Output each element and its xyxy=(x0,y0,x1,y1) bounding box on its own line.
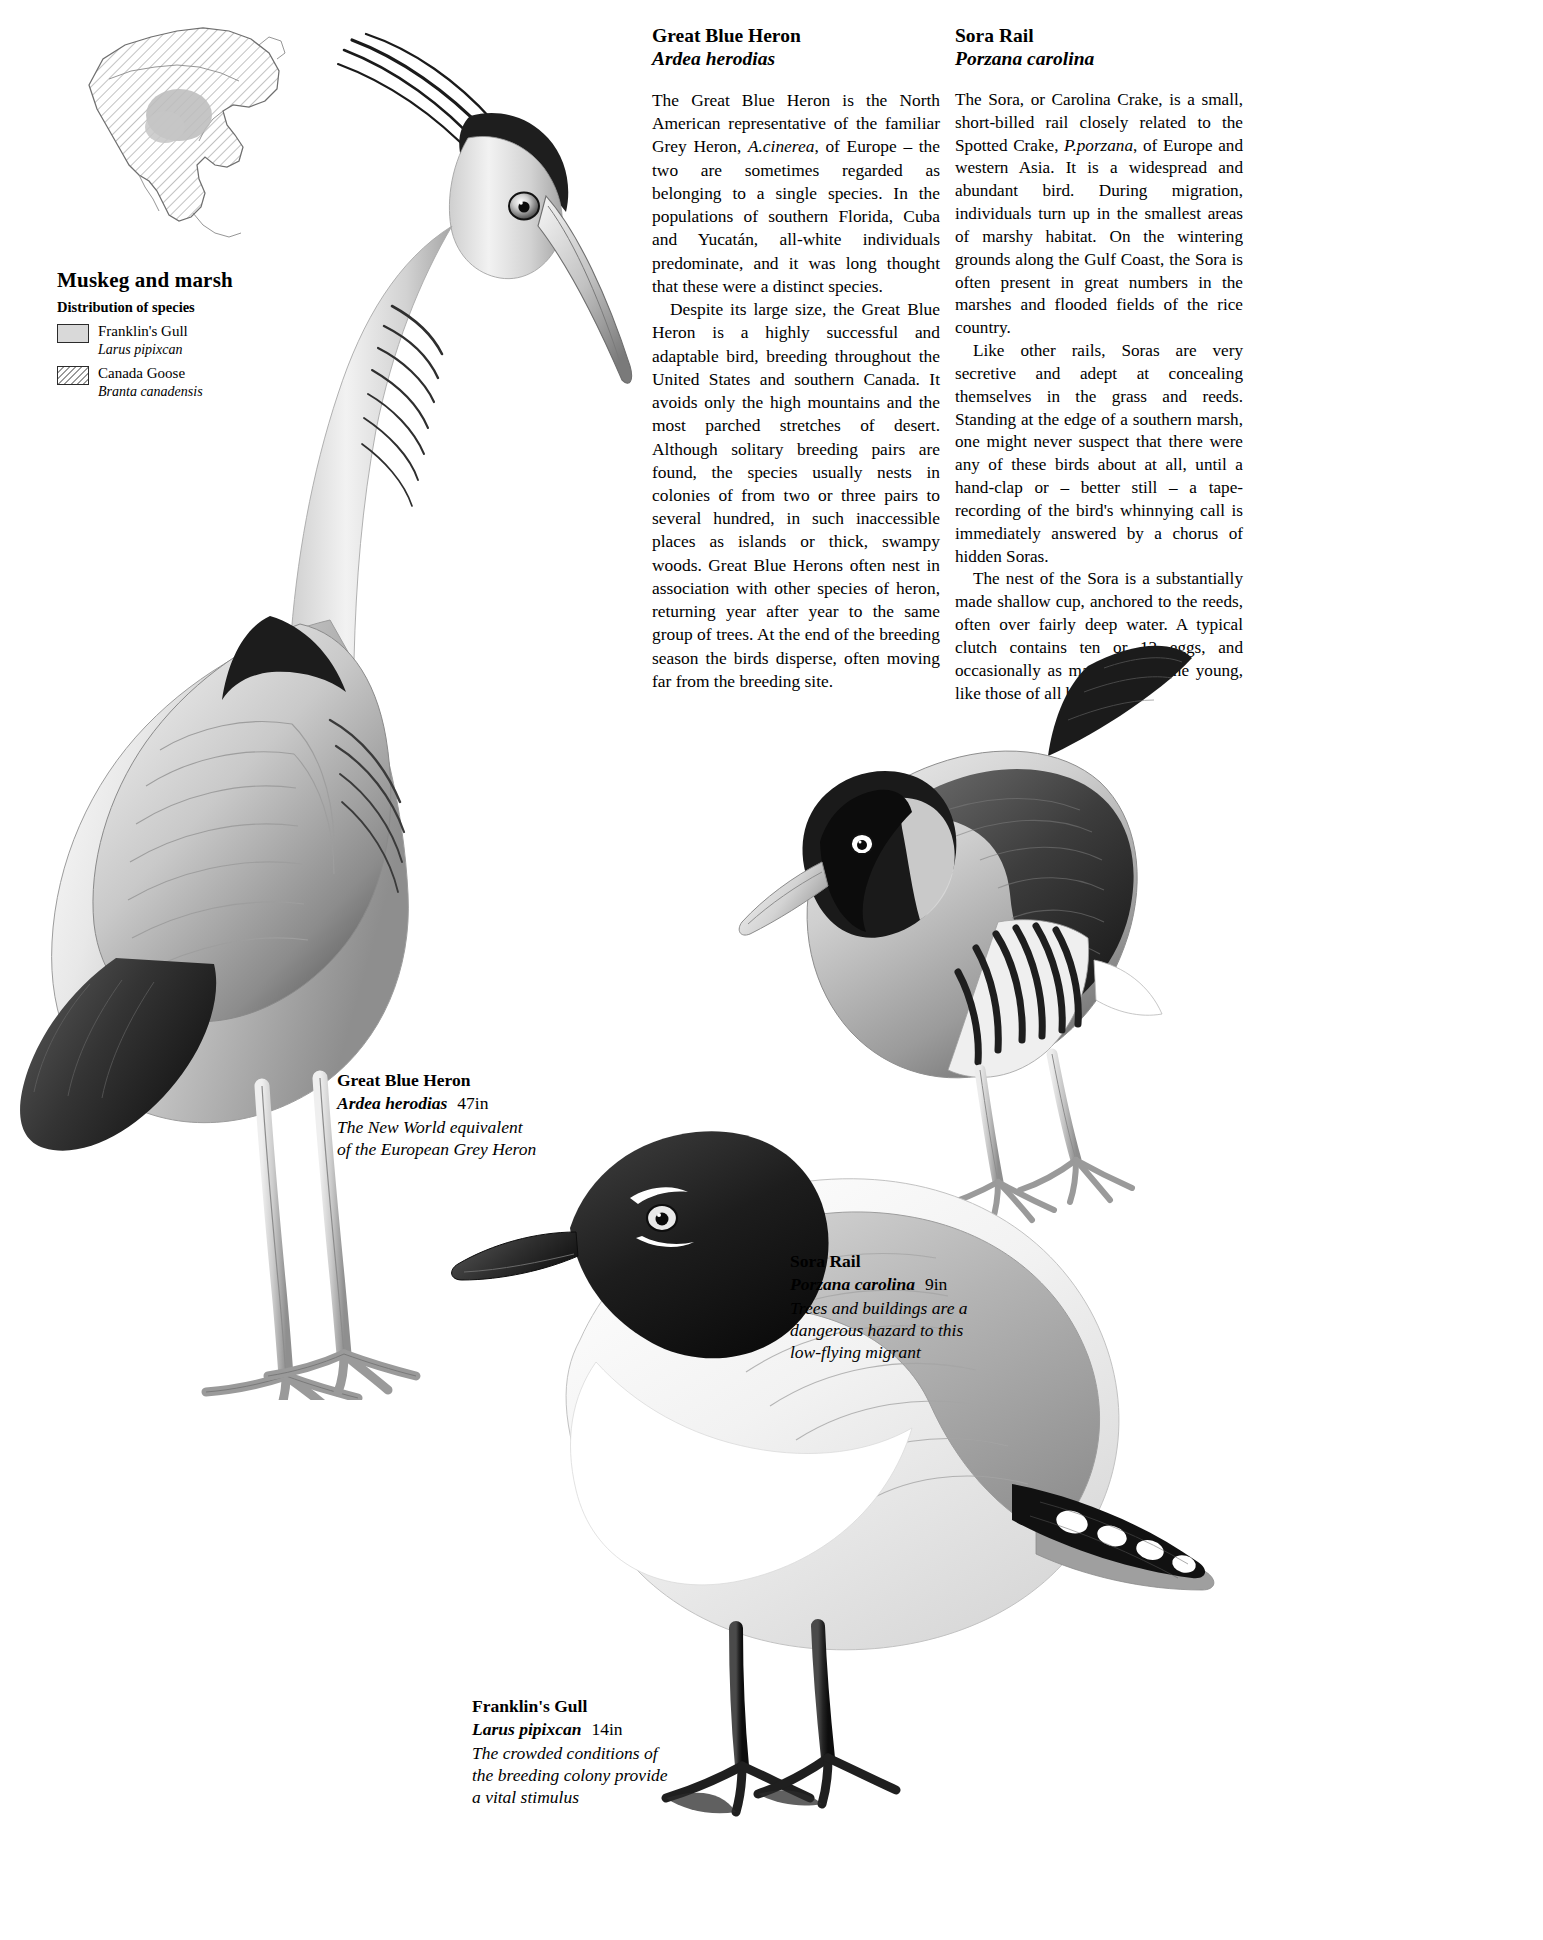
caption-note-line: The New World equivalent xyxy=(337,1117,523,1137)
sora-rail-caption: Sora Rail Porzana carolina9in Trees and … xyxy=(790,1250,1020,1364)
caption-size: 9in xyxy=(925,1274,947,1294)
article-body: The Sora, or Carolina Crake, is a small,… xyxy=(955,89,1243,705)
article-paragraph: The Great Blue Heron is the North Americ… xyxy=(652,89,940,298)
caption-note-line: a vital stimulus xyxy=(472,1787,579,1807)
article-body: The Great Blue Heron is the North Americ… xyxy=(652,89,940,693)
caption-latin-and-size: Ardea herodias47in xyxy=(337,1092,587,1115)
caption-latin-name: Larus pipixcan xyxy=(472,1719,581,1739)
caption-common-name: Great Blue Heron xyxy=(337,1069,587,1092)
caption-latin-name: Porzana carolina xyxy=(790,1274,915,1294)
franklins-gull-caption: Franklin's Gull Larus pipixcan14in The c… xyxy=(472,1695,722,1809)
caption-note: The crowded conditions of the breeding c… xyxy=(472,1742,722,1809)
sora-tail xyxy=(1048,646,1192,756)
caption-size: 47in xyxy=(457,1093,488,1113)
article-latin-name: Porzana carolina xyxy=(955,47,1243,70)
article-common-name: Sora Rail xyxy=(955,24,1243,47)
caption-note: The New World equivalent of the European… xyxy=(337,1116,587,1161)
caption-note-line: dangerous hazard to this xyxy=(790,1320,963,1340)
gull-bill xyxy=(452,1232,578,1280)
caption-note-line: The crowded conditions of xyxy=(472,1743,658,1763)
article-sora-rail: Sora Rail Porzana carolina The Sora, or … xyxy=(955,24,1243,705)
caption-note: Trees and buildings are a dangerous haza… xyxy=(790,1297,1020,1364)
caption-latin-name: Ardea herodias xyxy=(337,1093,447,1113)
article-paragraph: The Sora, or Carolina Crake, is a small,… xyxy=(955,89,1243,340)
caption-common-name: Franklin's Gull xyxy=(472,1695,722,1718)
article-latin-name: Ardea herodias xyxy=(652,47,940,70)
caption-note-line: of the European Grey Heron xyxy=(337,1139,536,1159)
caption-note-line: the breeding colony provide xyxy=(472,1765,668,1785)
sora-eye xyxy=(857,840,867,850)
caption-note-line: low-flying migrant xyxy=(790,1342,921,1362)
caption-common-name: Sora Rail xyxy=(790,1250,1020,1273)
article-paragraph: Like other rails, Soras are very secreti… xyxy=(955,340,1243,568)
caption-latin-and-size: Porzana carolina9in xyxy=(790,1273,1020,1296)
great-blue-heron-caption: Great Blue Heron Ardea herodias47in The … xyxy=(337,1069,587,1160)
caption-latin-and-size: Larus pipixcan14in xyxy=(472,1718,722,1741)
caption-size: 14in xyxy=(591,1719,622,1739)
article-common-name: Great Blue Heron xyxy=(652,24,940,47)
article-great-blue-heron: Great Blue Heron Ardea herodias The Grea… xyxy=(652,24,940,693)
caption-note-line: Trees and buildings are a xyxy=(790,1298,968,1318)
